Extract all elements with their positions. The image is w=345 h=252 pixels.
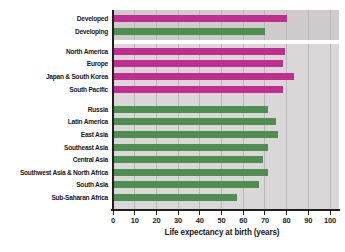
- tick-label-40: 40: [190, 216, 210, 225]
- tick-mark-50: [221, 211, 222, 216]
- bar-south-pacific: [114, 86, 283, 93]
- category-label-sub-saharan-africa: Sub-Saharan Africa: [6, 193, 108, 202]
- category-label-east-asia: East Asia: [6, 130, 108, 139]
- tick-mark-70: [264, 211, 265, 216]
- bar-central-asia: [114, 156, 264, 163]
- tick-mark-10: [134, 211, 135, 216]
- bar-japan-south-korea: [114, 73, 294, 80]
- tick-label-30: 30: [168, 216, 188, 225]
- tick-label-0: 0: [103, 216, 123, 225]
- bar-developed: [114, 15, 288, 22]
- tick-label-60: 60: [233, 216, 253, 225]
- tick-label-50: 50: [212, 216, 232, 225]
- y-axis-line: [112, 10, 114, 210]
- category-label-north-america: North America: [6, 47, 108, 56]
- tick-label-90: 90: [298, 216, 318, 225]
- tick-mark-40: [199, 211, 200, 216]
- category-label-europe: Europe: [6, 59, 108, 68]
- bar-southwest-asia-north-africa: [114, 169, 268, 176]
- bar-europe: [114, 60, 283, 67]
- bar-latin-america: [114, 118, 277, 125]
- tick-label-70: 70: [255, 216, 275, 225]
- category-label-latin-america: Latin America: [6, 117, 108, 126]
- category-label-south-pacific: South Pacific: [6, 85, 108, 94]
- bar-sub-saharan-africa: [114, 194, 238, 201]
- tick-mark-30: [178, 211, 179, 216]
- category-label-developing: Developing: [6, 27, 108, 36]
- category-label-southeast-asia: Southeast Asia: [6, 143, 108, 152]
- x-axis-line: [111, 209, 340, 211]
- x-axis-title: Life expectancy at birth (years): [122, 227, 323, 237]
- tick-mark-90: [308, 211, 309, 216]
- category-label-russia: Russia: [6, 105, 108, 114]
- tick-mark-0: [113, 211, 114, 216]
- category-label-central-asia: Central Asia: [6, 155, 108, 164]
- tick-mark-60: [243, 211, 244, 216]
- tick-mark-100: [330, 211, 331, 216]
- tick-label-10: 10: [125, 216, 145, 225]
- category-label-southwest-asia-north-africa: Southwest Asia & North Africa: [6, 168, 108, 177]
- life-expectancy-bar-chart: DevelopedDevelopingNorth AmericaEuropeJa…: [0, 0, 345, 252]
- tick-label-20: 20: [146, 216, 166, 225]
- category-label-south-asia: South Asia: [6, 180, 108, 189]
- tick-mark-80: [286, 211, 287, 216]
- bar-north-america: [114, 48, 285, 55]
- bar-developing: [114, 28, 266, 35]
- tick-mark-20: [156, 211, 157, 216]
- tick-label-100: 100: [320, 216, 340, 225]
- bar-southeast-asia: [114, 144, 268, 151]
- tick-label-80: 80: [277, 216, 297, 225]
- category-label-japan-south-korea: Japan & South Korea: [6, 72, 108, 81]
- category-label-developed: Developed: [6, 14, 108, 23]
- bar-russia: [114, 106, 268, 113]
- bar-east-asia: [114, 131, 279, 138]
- group-separator-stripe: [113, 40, 339, 44]
- bar-south-asia: [114, 181, 259, 188]
